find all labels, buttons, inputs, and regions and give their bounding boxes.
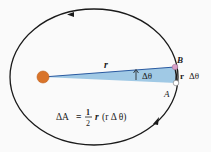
formula-lhs: ΔA [56, 112, 69, 122]
angle-label: Δθ [142, 71, 152, 81]
point-b-marker [172, 64, 178, 70]
point-a-label: A [163, 89, 170, 99]
formula-equals: = [76, 112, 81, 122]
radius-label: r [104, 59, 108, 70]
formula-fraction-denominator: 2 [86, 119, 90, 128]
formula-fraction-numerator: 1 [86, 108, 90, 117]
arc-length-r-label: r [180, 71, 184, 81]
formula-r: r [95, 112, 99, 122]
point-a-marker [173, 80, 179, 86]
point-b-label: B [176, 55, 183, 65]
formula-parenthetical: (r Δ θ) [102, 112, 126, 123]
arc-length-dtheta-label: Δθ [189, 71, 199, 81]
sun-focus [37, 71, 49, 83]
kepler-area-diagram: r Δθ B A r Δθ ΔA = 1 2 r (r Δ θ) [0, 0, 211, 152]
